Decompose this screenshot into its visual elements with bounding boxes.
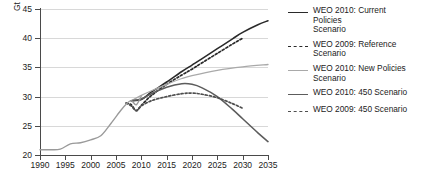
chart-figure: Gt 202530354045 199019952000200520102015… (0, 0, 427, 177)
gridline (41, 9, 268, 10)
y-axis-tick-label: 25 (12, 122, 32, 130)
series-line (126, 38, 243, 110)
gridline (41, 67, 268, 68)
legend-line-sample-icon (288, 91, 308, 100)
y-axis-line (40, 8, 41, 156)
legend-item-label: WEO 2009: Reference Scenario (313, 40, 396, 59)
series-line (131, 84, 268, 142)
gridline (41, 126, 268, 127)
legend-line-sample-icon (288, 43, 308, 52)
legend-item-label: WEO 2010: Current Policies Scenario (313, 6, 386, 35)
x-axis-tick-label: 2035 (253, 161, 283, 170)
series-line (40, 96, 141, 150)
y-axis-tick (35, 67, 40, 68)
y-axis-tick (35, 97, 40, 98)
y-axis-tick-label: 45 (12, 5, 32, 13)
y-axis-tick-label: 40 (12, 34, 32, 42)
gridline (41, 38, 268, 39)
legend-item[interactable]: WEO 2009: 450 Scenario (288, 105, 427, 117)
series-line (131, 21, 268, 101)
y-axis-tick (35, 9, 40, 10)
y-axis-tick-label: 35 (12, 63, 32, 71)
y-axis-tick (35, 126, 40, 127)
legend-line-sample-icon (288, 9, 308, 18)
legend-item[interactable]: WEO 2009: Reference Scenario (288, 40, 427, 59)
legend-line-sample-icon (288, 67, 308, 76)
y-axis-tick-label: 30 (12, 93, 32, 101)
legend-item-label: WEO 2010: New Policies Scenario (313, 64, 406, 83)
x-axis-line (40, 155, 269, 156)
legend-line-sample-icon (288, 108, 308, 117)
chart-legend: WEO 2010: Current Policies ScenarioWEO 2… (288, 6, 427, 122)
legend-item-label: WEO 2009: 450 Scenario (313, 105, 407, 115)
legend-item[interactable]: WEO 2010: Current Policies Scenario (288, 6, 427, 35)
y-axis-tick-label: 20 (12, 151, 32, 159)
series-line (131, 64, 268, 100)
gridline (41, 97, 268, 98)
legend-item[interactable]: WEO 2010: New Policies Scenario (288, 64, 427, 83)
legend-item[interactable]: WEO 2010: 450 Scenario (288, 88, 427, 100)
y-axis-tick (35, 38, 40, 39)
legend-item-label: WEO 2010: 450 Scenario (313, 88, 407, 98)
